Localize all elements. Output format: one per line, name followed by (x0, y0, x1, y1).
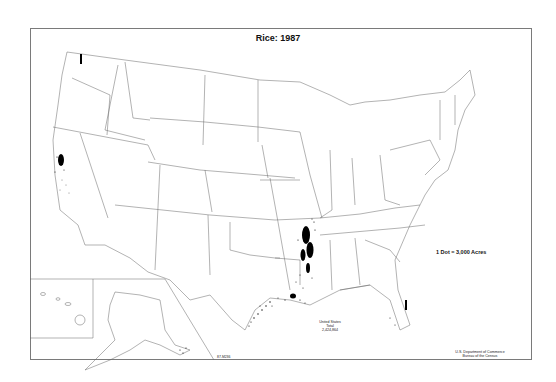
source-credit: U.S. Department of Commerce Bureau of th… (440, 350, 520, 358)
credit-line2: Bureau of the Census (440, 354, 520, 358)
rice-dots (55, 54, 408, 354)
map-code: 87-M236 (217, 355, 230, 359)
total-value: 2,424,864 (300, 328, 360, 332)
state-boundaries (30, 52, 475, 370)
dot-legend: 1 Dot = 3,000 Acres (436, 249, 486, 255)
us-total: United States Total 2,424,864 (300, 320, 360, 332)
map-title: Rice: 1987 (0, 33, 556, 43)
us-dot-map (0, 0, 556, 382)
